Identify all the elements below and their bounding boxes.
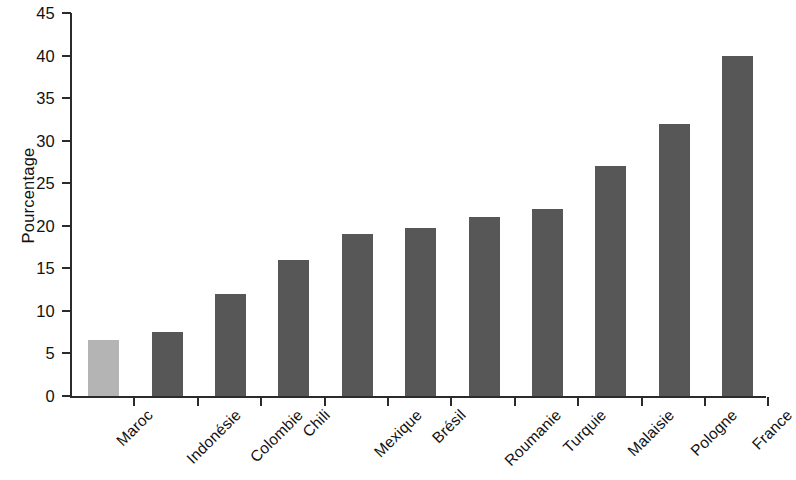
x-tick-mark (133, 397, 135, 406)
y-axis-title: Pourcentage (19, 76, 38, 316)
bar (88, 340, 119, 396)
x-tick-mark (324, 397, 326, 406)
y-axis-line (70, 13, 72, 397)
y-tick-label: 45 (0, 4, 55, 23)
x-tick-label: Turquie (559, 406, 609, 456)
bar (215, 294, 246, 396)
x-tick-label: Maroc (113, 406, 157, 450)
y-tick-label: 35 (0, 89, 55, 108)
x-axis-line (70, 396, 766, 398)
x-tick-label: France (748, 406, 796, 454)
x-tick-mark (514, 397, 516, 406)
x-tick-mark (704, 397, 706, 406)
y-tick-mark (62, 225, 71, 227)
y-tick-mark (62, 97, 71, 99)
x-tick-label: Chili (299, 406, 334, 441)
x-tick-mark (641, 397, 643, 406)
y-tick-mark (62, 55, 71, 57)
x-tick-label: Roumanie (501, 406, 565, 470)
x-tick-mark (577, 397, 579, 406)
bar (152, 332, 183, 396)
y-tick-mark (62, 267, 71, 269)
bar (659, 124, 690, 396)
x-tick-label: Colombie (246, 406, 306, 466)
y-tick-label: 25 (0, 174, 55, 193)
bar (405, 228, 436, 396)
bar (342, 234, 373, 396)
y-tick-mark (62, 12, 71, 14)
y-tick-mark (62, 140, 71, 142)
x-tick-label: Mexique (371, 406, 426, 461)
x-tick-mark (450, 397, 452, 406)
x-tick-mark (197, 397, 199, 406)
x-tick-mark (767, 397, 769, 406)
x-tick-mark (387, 397, 389, 406)
bar (722, 56, 753, 396)
bar (595, 166, 626, 396)
y-tick-mark (62, 352, 71, 354)
bar (278, 260, 309, 396)
x-tick-label: Malaisie (624, 406, 678, 460)
x-tick-label: Brésil (428, 406, 469, 447)
bar (532, 209, 563, 396)
y-tick-label: 5 (0, 344, 55, 363)
x-tick-label: Pologne (687, 406, 741, 460)
y-tick-label: 15 (0, 259, 55, 278)
bar (469, 217, 500, 396)
y-tick-label: 30 (0, 131, 55, 150)
y-tick-mark (62, 395, 71, 397)
y-tick-label: 20 (0, 216, 55, 235)
y-tick-mark (62, 182, 71, 184)
x-tick-mark (260, 397, 262, 406)
y-tick-label: 0 (0, 387, 55, 406)
y-tick-label: 40 (0, 46, 55, 65)
y-tick-label: 10 (0, 301, 55, 320)
x-tick-label: Indonésie (183, 406, 245, 468)
y-tick-mark (62, 310, 71, 312)
